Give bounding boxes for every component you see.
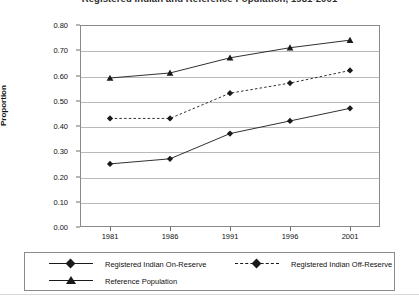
diamond-marker-icon bbox=[66, 259, 76, 269]
x-tick-label: 1981 bbox=[102, 232, 119, 241]
legend-key-reference-population bbox=[45, 275, 97, 287]
x-tick-mark bbox=[290, 227, 291, 231]
legend-item-reference-population: Reference Population bbox=[45, 273, 177, 289]
y-tick-label: 0.40 bbox=[22, 122, 68, 131]
y-axis-title: Proportion bbox=[0, 85, 8, 126]
y-tick-label: 0.20 bbox=[22, 172, 68, 181]
x-tick-label: 1991 bbox=[222, 232, 239, 241]
legend-label-on-reserve: Registered Indian On-Reserve bbox=[105, 260, 206, 269]
x-tick-mark bbox=[170, 227, 171, 231]
diamond-marker-icon bbox=[167, 115, 173, 121]
y-tick-label: 0.60 bbox=[22, 71, 68, 80]
x-tick-mark bbox=[110, 227, 111, 231]
legend-key-on-reserve bbox=[45, 258, 97, 270]
diamond-marker-icon bbox=[227, 130, 233, 136]
triangle-marker-icon bbox=[347, 37, 354, 43]
x-tick-label: 1996 bbox=[282, 232, 299, 241]
series-reference-population bbox=[107, 37, 354, 81]
data-series-layer bbox=[80, 25, 380, 227]
legend-label-off-reserve: Registered Indian Off-Reserve bbox=[291, 260, 392, 269]
chart-figure: Registered Indian and Reference Populati… bbox=[0, 0, 419, 298]
page-edge-divider bbox=[0, 294, 419, 295]
x-tick-label: 2001 bbox=[342, 232, 359, 241]
diamond-marker-icon bbox=[347, 105, 353, 111]
legend-item-on-reserve: Registered Indian On-Reserve bbox=[45, 256, 206, 272]
y-tick-label: 0.10 bbox=[22, 197, 68, 206]
chart-legend: Registered Indian On-Reserve Registered … bbox=[24, 252, 395, 291]
y-tick-label: 0.50 bbox=[22, 96, 68, 105]
legend-item-off-reserve: Registered Indian Off-Reserve bbox=[231, 256, 392, 272]
diamond-marker-icon bbox=[107, 161, 113, 167]
x-tick-mark bbox=[230, 227, 231, 231]
x-tick-label: 1986 bbox=[162, 232, 179, 241]
diamond-marker-icon bbox=[227, 90, 233, 96]
y-tick-label: 0.80 bbox=[22, 21, 68, 30]
y-tick-label: 0.70 bbox=[22, 46, 68, 55]
x-tick-mark bbox=[350, 227, 351, 231]
y-tick-label: 0.30 bbox=[22, 147, 68, 156]
diamond-marker-icon bbox=[287, 118, 293, 124]
diamond-marker-icon bbox=[167, 156, 173, 162]
diamond-marker-icon bbox=[347, 67, 353, 73]
series-registered-indian-on-reserve bbox=[107, 105, 353, 167]
triangle-marker-icon bbox=[66, 276, 76, 284]
diamond-marker-icon bbox=[107, 115, 113, 121]
legend-label-reference-population: Reference Population bbox=[105, 277, 177, 286]
diamond-marker-icon bbox=[252, 259, 262, 269]
legend-key-off-reserve bbox=[231, 258, 283, 270]
diamond-marker-icon bbox=[287, 80, 293, 86]
y-tick-label: 0.00 bbox=[22, 223, 68, 232]
